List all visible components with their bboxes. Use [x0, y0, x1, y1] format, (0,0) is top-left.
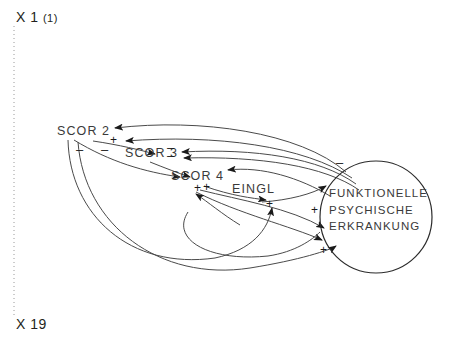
outcome-line-3: ERKRANKUNG: [329, 218, 429, 235]
sign-scor2-plus: +: [110, 134, 117, 146]
sign-scor3-minus-b: –: [167, 149, 174, 162]
axis-label-x1-sub: (1): [43, 12, 58, 24]
sign-scor4-plus-b: +: [203, 181, 210, 193]
outcome-line-2: PSYCHISCHE: [329, 202, 429, 219]
edge-lower-left-to-eingl: [184, 212, 320, 257]
sign-scor2-minus-a: –: [76, 143, 83, 156]
sign-scor4-plus-a: +: [194, 182, 201, 194]
outcome-node-text: FUNKTIONELLE PSYCHISCHE ERKRANKUNG: [329, 185, 429, 235]
edge-into-scor4-from-right: [196, 194, 240, 225]
axis-label-x1: X 1 (1): [16, 9, 58, 25]
path-diagram-svg: [0, 0, 450, 352]
node-label-scor2: SCOR 2: [57, 124, 110, 138]
sign-scor2-minus-b: –: [101, 143, 108, 156]
sign-outcome-plus-low: +: [320, 244, 327, 256]
sign-outcome-plus-mid: +: [311, 204, 318, 216]
node-label-eingl: EINGL: [232, 182, 275, 196]
outcome-line-1: FUNKTIONELLE: [329, 185, 429, 202]
sign-outcome-minus-top: –: [336, 156, 343, 169]
sign-eingl-plus: +: [266, 198, 273, 210]
axis-label-x19: X 19: [16, 316, 47, 332]
diagram-canvas: X 1 (1) X 19 SCOR 2 SCOR 3 SCOR 4 EINGL …: [0, 0, 450, 352]
axis-label-x1-text: X 1: [16, 9, 39, 25]
